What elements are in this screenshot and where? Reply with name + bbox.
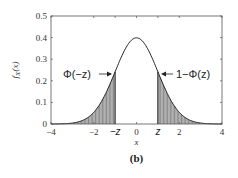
y-tick-label: 0.5: [36, 11, 48, 21]
x-tick-label: 2: [177, 127, 182, 137]
y-tick-label: 0.2: [36, 76, 47, 86]
y-axis-label: fX(x): [10, 62, 22, 79]
y-tick-label: 0.3: [36, 54, 48, 64]
figure-caption: (b): [130, 152, 144, 165]
left-tail-annotation: Φ(−z): [63, 68, 91, 80]
right-tail-annotation: 1−Φ(z): [176, 68, 210, 80]
normal-pdf-chart: 00.10.20.30.40.5−4−2−z0z24xfX(x)Φ(−z)1−Φ…: [0, 0, 238, 178]
z-tick-label: −z: [110, 126, 121, 137]
y-tick-label: 0.4: [36, 33, 48, 43]
pdf-curve: [51, 38, 222, 124]
z-tick-label: z: [154, 126, 160, 137]
x-tick-label: −2: [89, 127, 99, 137]
x-axis-label: x: [134, 137, 139, 147]
left-arrow-head: [107, 72, 112, 77]
x-tick-label: −4: [46, 127, 56, 137]
x-tick-label: 0: [134, 127, 139, 137]
right-arrow-head: [161, 72, 166, 77]
y-tick-label: 0.1: [36, 97, 47, 107]
x-tick-label: 4: [220, 127, 225, 137]
